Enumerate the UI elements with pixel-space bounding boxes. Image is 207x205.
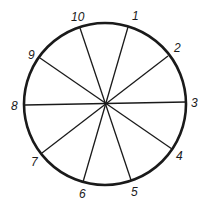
circle-diagram: 12345678910: [0, 0, 207, 205]
point-label-4: 4: [176, 149, 183, 163]
point-label-7: 7: [31, 155, 39, 169]
point-label-5: 5: [131, 185, 138, 199]
point-label-1: 1: [132, 9, 139, 23]
point-label-2: 2: [173, 41, 181, 55]
diameter-lines: [25, 27, 186, 182]
point-label-10: 10: [71, 10, 85, 24]
point-label-6: 6: [79, 187, 86, 201]
point-label-8: 8: [11, 99, 18, 113]
point-label-3: 3: [191, 96, 198, 110]
point-label-9: 9: [28, 48, 35, 62]
